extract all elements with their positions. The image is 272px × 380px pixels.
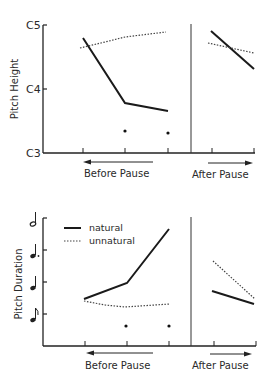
pitch-duration-chart: Pitch Duration natural unnatural Before …	[13, 212, 256, 371]
natural-line-after	[211, 31, 254, 69]
y-axis-label: Pitch Duration	[13, 249, 24, 320]
legend-unnatural-label: unnatural	[89, 235, 135, 246]
y-axis-label: Pitch Height	[9, 59, 20, 120]
significance-marker	[166, 131, 169, 134]
unnatural-line-before	[80, 32, 166, 48]
after-pause-label: After Pause	[192, 360, 249, 371]
eighth-note-icon	[30, 308, 39, 323]
after-arrow-head	[244, 352, 252, 357]
quarter-note-icon	[30, 276, 37, 291]
significance-marker	[167, 324, 170, 327]
significance-marker	[123, 129, 126, 132]
natural-line-after	[212, 291, 254, 304]
legend-natural-label: natural	[89, 222, 123, 233]
natural-line-before	[83, 38, 168, 111]
after-arrow-head	[245, 161, 253, 166]
significance-marker	[124, 324, 127, 327]
before-pause-label: Before Pause	[84, 168, 149, 179]
before-pause-label: Before Pause	[85, 360, 150, 371]
unnatural-line-before	[84, 301, 170, 307]
after-pause-label: After Pause	[192, 169, 249, 180]
figure: C5 C4 C3 Pitch Height Before Pause After…	[0, 0, 272, 380]
y-tick-label-c4: C4	[26, 83, 41, 96]
dotted-quarter-note-icon	[30, 244, 40, 259]
y-tick-label-c3: C3	[26, 147, 41, 160]
y-tick-label-c5: C5	[26, 19, 41, 32]
before-arrow-head	[83, 160, 91, 165]
before-arrow-head	[86, 351, 94, 356]
pitch-height-chart: C5 C4 C3 Pitch Height Before Pause After…	[9, 19, 255, 180]
half-note-icon	[30, 212, 37, 227]
